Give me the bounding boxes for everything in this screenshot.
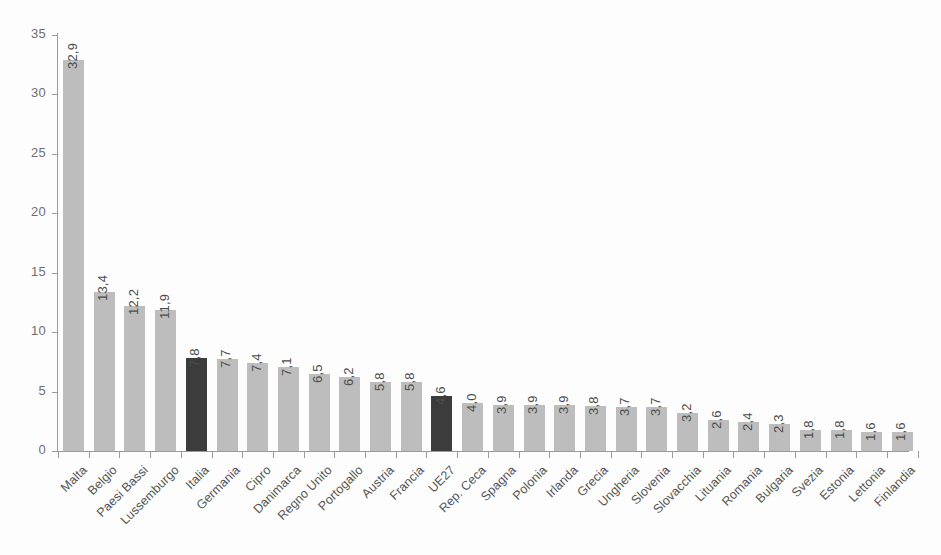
y-axis-tick-label: 25 bbox=[0, 145, 46, 160]
bar-value-label: 1,6 bbox=[863, 422, 878, 441]
x-axis-tick bbox=[549, 451, 550, 458]
bar-value-label: 7,1 bbox=[279, 357, 294, 376]
bar bbox=[186, 358, 207, 451]
x-axis-tick bbox=[365, 451, 366, 458]
y-axis-line bbox=[57, 33, 58, 452]
y-axis-tick-label: 35 bbox=[0, 26, 46, 41]
bar-value-label: 4,0 bbox=[464, 394, 479, 413]
bar-value-label: 13,4 bbox=[95, 275, 110, 301]
x-axis-tick bbox=[242, 451, 243, 458]
y-axis-tick bbox=[52, 154, 58, 155]
bar-value-label: 7,8 bbox=[187, 349, 202, 368]
bar-value-label: 3,9 bbox=[494, 395, 509, 414]
bar-value-label: 3,2 bbox=[679, 403, 694, 422]
x-axis-line bbox=[57, 451, 909, 452]
x-axis-tick bbox=[703, 451, 704, 458]
y-axis-tick bbox=[52, 392, 58, 393]
bar bbox=[63, 60, 84, 451]
bar bbox=[217, 359, 238, 451]
x-axis-tick bbox=[334, 451, 335, 458]
bar bbox=[278, 367, 299, 451]
x-axis-tick bbox=[457, 451, 458, 458]
x-axis-tick bbox=[396, 451, 397, 458]
bar-value-label: 2,6 bbox=[709, 410, 724, 429]
x-axis-tick bbox=[733, 451, 734, 458]
y-axis-tick bbox=[52, 213, 58, 214]
bar-value-label: 6,5 bbox=[310, 364, 325, 383]
bar-value-label: 7,4 bbox=[249, 353, 264, 372]
y-axis-tick-label: 5 bbox=[0, 383, 46, 398]
x-axis-tick bbox=[119, 451, 120, 458]
x-axis-tick bbox=[641, 451, 642, 458]
bar-value-label: 11,9 bbox=[157, 293, 172, 318]
x-axis-tick bbox=[826, 451, 827, 458]
y-axis-tick-label: 0 bbox=[0, 442, 46, 457]
y-axis-tick bbox=[52, 35, 58, 36]
x-axis-tick bbox=[89, 451, 90, 458]
bar bbox=[124, 306, 145, 451]
x-axis-tick bbox=[304, 451, 305, 458]
y-axis-tick bbox=[52, 94, 58, 95]
bar-value-label: 6,2 bbox=[341, 368, 356, 387]
x-axis-tick bbox=[672, 451, 673, 458]
x-axis-tick bbox=[580, 451, 581, 458]
bar-value-label: 5,8 bbox=[402, 372, 417, 391]
x-axis-tick bbox=[181, 451, 182, 458]
bar bbox=[247, 363, 268, 451]
bar-value-label: 1,6 bbox=[893, 422, 908, 441]
bar-value-label: 32,9 bbox=[65, 43, 80, 69]
y-axis-tick-label: 10 bbox=[0, 323, 46, 338]
x-axis-tick bbox=[150, 451, 151, 458]
bar-value-label: 12,2 bbox=[126, 289, 141, 315]
x-axis-tick bbox=[887, 451, 888, 458]
bar-value-label: 1,8 bbox=[801, 420, 816, 439]
x-axis-tick bbox=[611, 451, 612, 458]
x-axis-tick bbox=[426, 451, 427, 458]
x-axis-tick bbox=[273, 451, 274, 458]
x-axis-tick bbox=[519, 451, 520, 458]
bar-value-label: 4,6 bbox=[433, 387, 448, 406]
y-axis-tick bbox=[52, 332, 58, 333]
y-axis-tick-label: 30 bbox=[0, 85, 46, 100]
y-axis-tick-label: 20 bbox=[0, 204, 46, 219]
bar-chart: 32,913,412,211,97,87,77,47,16,56,25,85,8… bbox=[0, 0, 941, 555]
bar bbox=[309, 374, 330, 451]
bar bbox=[370, 382, 391, 451]
x-axis-tick bbox=[58, 451, 59, 458]
x-axis-tick bbox=[918, 451, 919, 458]
bar bbox=[155, 310, 176, 451]
bar-value-label: 3,7 bbox=[648, 397, 663, 416]
bar-value-label: 2,4 bbox=[740, 413, 755, 432]
bar-value-label: 5,8 bbox=[372, 372, 387, 391]
x-axis-tick bbox=[488, 451, 489, 458]
x-axis-tick bbox=[795, 451, 796, 458]
bar-value-label: 2,3 bbox=[771, 414, 786, 433]
x-axis-tick bbox=[856, 451, 857, 458]
bar-value-label: 3,9 bbox=[525, 395, 540, 414]
bar bbox=[401, 382, 422, 451]
bar bbox=[94, 292, 115, 451]
y-axis-tick-label: 15 bbox=[0, 264, 46, 279]
x-axis-tick bbox=[764, 451, 765, 458]
y-axis-tick bbox=[52, 273, 58, 274]
bar-value-label: 1,8 bbox=[832, 420, 847, 439]
bar-value-label: 3,8 bbox=[586, 396, 601, 415]
bar-value-label: 7,7 bbox=[218, 350, 233, 369]
x-axis-tick bbox=[212, 451, 213, 458]
bar-value-label: 3,9 bbox=[556, 395, 571, 414]
bar bbox=[339, 377, 360, 451]
bar-value-label: 3,7 bbox=[617, 397, 632, 416]
